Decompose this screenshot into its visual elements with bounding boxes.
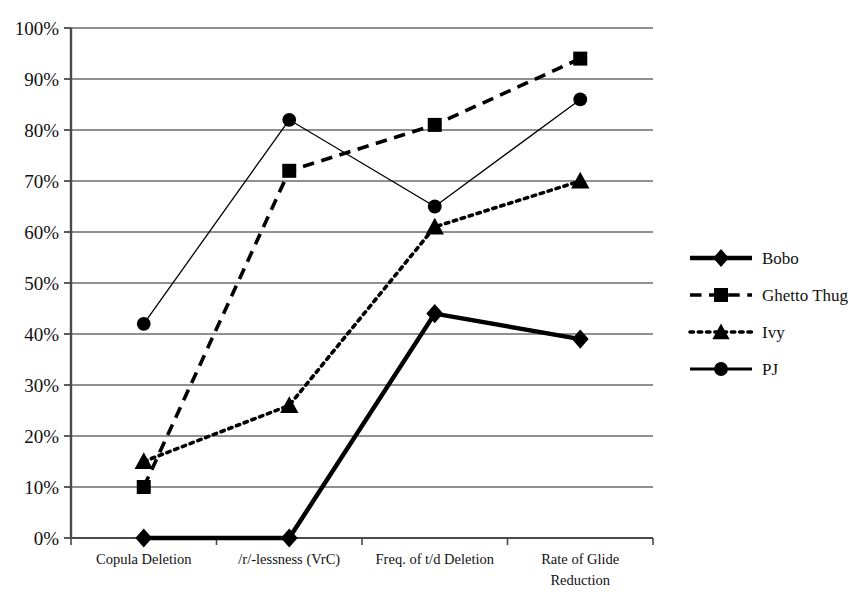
y-axis-tick-label: 100% xyxy=(15,18,60,39)
data-point-square-marker xyxy=(282,164,296,178)
legend-item-label: PJ xyxy=(762,360,778,379)
legend-item-label: Ghetto Thug xyxy=(762,286,849,305)
y-axis-tick-label: 30% xyxy=(24,375,59,396)
line-chart: 0%10%20%30%40%50%60%70%80%90%100% Copula… xyxy=(0,0,863,606)
y-axis-tick-label: 60% xyxy=(24,222,59,243)
data-point-square-marker xyxy=(573,52,587,66)
y-axis-tick-label: 0% xyxy=(34,528,60,549)
data-point-square-marker xyxy=(714,288,728,302)
y-axis-tick-label: 70% xyxy=(24,171,59,192)
data-point-circle-marker xyxy=(428,200,442,214)
y-axis-tick-label: 90% xyxy=(24,69,59,90)
legend-item-label: Bobo xyxy=(762,249,799,268)
chart-container: 0%10%20%30%40%50%60%70%80%90%100% Copula… xyxy=(0,0,863,606)
data-point-circle-marker xyxy=(137,317,151,331)
y-axis-tick-label: 50% xyxy=(24,273,59,294)
data-point-square-marker xyxy=(137,480,151,494)
y-axis-tick-label: 10% xyxy=(24,477,59,498)
y-axis-tick-label: 20% xyxy=(24,426,59,447)
chart-background xyxy=(0,0,863,606)
legend-item-label: Ivy xyxy=(762,323,785,342)
data-point-circle-marker xyxy=(714,362,728,376)
x-axis-category-label: Freq. of t/d Deletion xyxy=(376,551,495,567)
data-point-circle-marker xyxy=(573,93,587,107)
data-point-square-marker xyxy=(428,118,442,132)
y-axis-tick-label: 40% xyxy=(24,324,59,345)
x-axis-category-label: /r/-lessness (VrC) xyxy=(238,551,340,568)
y-axis-tick-label: 80% xyxy=(24,120,59,141)
x-axis-category-label: Copula Deletion xyxy=(96,551,192,567)
data-point-circle-marker xyxy=(282,113,296,127)
